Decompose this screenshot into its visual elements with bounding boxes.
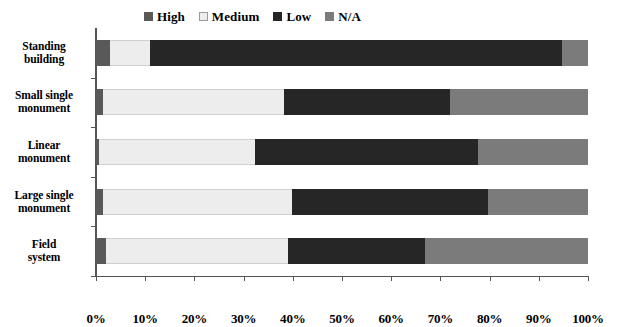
- bar-segment-medium: [103, 189, 292, 215]
- x-axis-tick-label: 80%: [467, 311, 513, 327]
- y-axis-tick: [91, 127, 96, 128]
- x-axis-tick-label: 20%: [171, 311, 217, 327]
- stacked-bar: [96, 40, 588, 66]
- category-label-line: Large single: [0, 189, 88, 202]
- stacked-bar: [96, 89, 588, 115]
- x-axis-tick-label: 40%: [270, 311, 316, 327]
- legend-swatch-icon: [144, 12, 153, 21]
- legend-swatch-icon: [273, 12, 282, 21]
- x-axis-tick: [539, 276, 540, 281]
- x-axis-tick: [391, 276, 392, 281]
- x-axis-tick: [244, 276, 245, 281]
- category-label-line: system: [0, 251, 88, 264]
- legend-swatch-icon: [325, 12, 334, 21]
- bar-segment-high: [96, 238, 106, 264]
- y-axis-tick: [91, 78, 96, 79]
- legend-label: Medium: [212, 10, 260, 23]
- legend-item-medium: Medium: [199, 10, 260, 23]
- bar-row: [96, 40, 588, 66]
- bar-segment-high: [96, 40, 110, 66]
- y-axis-tick: [91, 276, 96, 277]
- category-label-line: Field: [0, 238, 88, 251]
- chart-legend: HighMediumLowN/A: [96, 7, 588, 25]
- x-axis-tick-label: 100%: [565, 311, 611, 327]
- y-axis-tick: [91, 177, 96, 178]
- category-label: Fieldsystem: [0, 238, 88, 264]
- bar-segment-low: [255, 139, 478, 165]
- category-label-line: monument: [0, 152, 88, 165]
- bar-row: [96, 89, 588, 115]
- legend-label: N/A: [338, 10, 361, 23]
- x-axis-tick-label: 30%: [221, 311, 267, 327]
- category-label-line: Standing: [0, 40, 88, 53]
- stacked-bar: [96, 189, 588, 215]
- legend-item-high: High: [144, 10, 185, 23]
- x-axis-tick: [588, 276, 589, 281]
- x-axis-tick: [194, 276, 195, 281]
- bar-segment-high: [96, 89, 103, 115]
- bar-segment-low: [288, 238, 425, 264]
- legend-label: Low: [286, 10, 311, 23]
- bar-segment-high: [96, 189, 103, 215]
- bar-segment-low: [284, 89, 450, 115]
- x-axis-tick-label: 60%: [368, 311, 414, 327]
- bar-segment-medium: [99, 139, 254, 165]
- x-axis-tick: [342, 276, 343, 281]
- category-label-line: Small single: [0, 89, 88, 102]
- category-label-line: Linear: [0, 139, 88, 152]
- x-axis-tick: [490, 276, 491, 281]
- category-label: Linearmonument: [0, 139, 88, 165]
- plot-area: 0%10%20%30%40%50%60%70%80%90%100%: [96, 28, 588, 276]
- bar-segment-medium: [110, 40, 150, 66]
- category-label: Large singlemonument: [0, 189, 88, 215]
- x-axis-tick: [440, 276, 441, 281]
- x-axis-tick-label: 0%: [73, 311, 119, 327]
- x-axis-tick: [145, 276, 146, 281]
- bar-segment-n-a: [478, 139, 588, 165]
- bar-segment-medium: [106, 238, 288, 264]
- category-label: Small singlemonument: [0, 89, 88, 115]
- legend-item-low: Low: [273, 10, 311, 23]
- category-label-line: monument: [0, 102, 88, 115]
- bar-row: [96, 139, 588, 165]
- bar-segment-n-a: [488, 189, 588, 215]
- bar-segment-n-a: [562, 40, 588, 66]
- x-axis-tick-label: 90%: [516, 311, 562, 327]
- category-label-line: monument: [0, 202, 88, 215]
- x-axis-tick: [293, 276, 294, 281]
- stacked-bar: [96, 139, 588, 165]
- x-axis-tick-label: 50%: [319, 311, 365, 327]
- bar-segment-medium: [103, 89, 284, 115]
- y-axis-tick: [91, 226, 96, 227]
- x-axis-tick-label: 70%: [417, 311, 463, 327]
- bar-segment-n-a: [425, 238, 588, 264]
- x-axis-tick-label: 10%: [122, 311, 168, 327]
- legend-item-n-a: N/A: [325, 10, 361, 23]
- category-label: Standingbuilding: [0, 40, 88, 66]
- bar-segment-low: [292, 189, 488, 215]
- bar-row: [96, 189, 588, 215]
- bar-segment-low: [150, 40, 562, 66]
- legend-swatch-icon: [199, 12, 208, 21]
- category-label-line: building: [0, 53, 88, 66]
- stacked-bar: [96, 238, 588, 264]
- legend-label: High: [157, 10, 185, 23]
- bar-row: [96, 238, 588, 264]
- x-axis-tick: [96, 276, 97, 281]
- bar-segment-n-a: [450, 89, 588, 115]
